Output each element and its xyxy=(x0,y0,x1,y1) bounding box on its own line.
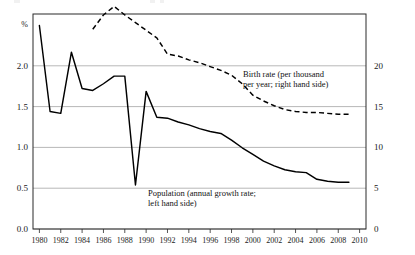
left-tick-2: 1.0 xyxy=(17,142,29,152)
left-axis-unit-label: % xyxy=(21,20,28,29)
x-tick-label-2008: 2008 xyxy=(330,236,346,245)
left-tick-0: 0.0 xyxy=(17,224,29,234)
population-annotation: Population (annual growth rate; left han… xyxy=(148,188,256,208)
right-tick-4: 20 xyxy=(374,61,384,71)
x-tick-label-2002: 2002 xyxy=(266,236,282,245)
left-axis-tick-labels: 0.0 0.5 1.0 1.5 2.0 xyxy=(17,61,29,234)
birth-rate-annotation-line1: Birth rate (per thousand xyxy=(243,69,325,79)
x-tick-label-2006: 2006 xyxy=(309,236,325,245)
dual-axis-line-chart: % 0.0 0.5 1.0 1.5 2.0 0 5 10 15 20 19801… xyxy=(0,0,415,255)
series-population-line xyxy=(39,25,349,185)
x-tick-label-1996: 1996 xyxy=(202,236,218,245)
x-tick-label-1980: 1980 xyxy=(31,236,47,245)
chart-canvas: % 0.0 0.5 1.0 1.5 2.0 0 5 10 15 20 19801… xyxy=(0,0,415,255)
population-annotation-line1: Population (annual growth rate; xyxy=(148,188,256,198)
left-tick-3: 1.5 xyxy=(17,102,29,112)
x-tick-label-1982: 1982 xyxy=(53,236,69,245)
x-tick-label-1986: 1986 xyxy=(95,236,111,245)
birth-rate-annotation: Birth rate (per thousand per year; right… xyxy=(243,69,329,89)
left-tick-1: 0.5 xyxy=(17,183,29,193)
x-axis: 1980198219841986198819901992199419961998… xyxy=(31,229,367,245)
x-tick-label-2010: 2010 xyxy=(352,236,368,245)
right-tick-1: 5 xyxy=(374,183,379,193)
right-axis-tick-labels: 0 5 10 15 20 xyxy=(374,61,384,234)
x-tick-label-2004: 2004 xyxy=(288,236,304,245)
x-tick-label-1984: 1984 xyxy=(74,236,90,245)
x-tick-label-1988: 1988 xyxy=(117,236,133,245)
right-tick-2: 10 xyxy=(374,142,384,152)
x-tick-label-1998: 1998 xyxy=(224,236,240,245)
gridlines xyxy=(33,66,366,229)
series-birth-rate-line xyxy=(93,6,349,114)
population-annotation-line2: left hand side) xyxy=(148,198,197,208)
cropped-title-remnant xyxy=(14,0,164,3)
x-tick-label-2000: 2000 xyxy=(245,236,261,245)
x-tick-label-1992: 1992 xyxy=(159,236,175,245)
right-tick-0: 0 xyxy=(374,224,379,234)
right-tick-3: 15 xyxy=(374,102,384,112)
birth-rate-annotation-line2: per year; right hand side) xyxy=(243,79,329,89)
left-tick-4: 2.0 xyxy=(17,61,29,71)
x-tick-label-1994: 1994 xyxy=(181,236,197,245)
x-tick-label-1990: 1990 xyxy=(138,236,154,245)
